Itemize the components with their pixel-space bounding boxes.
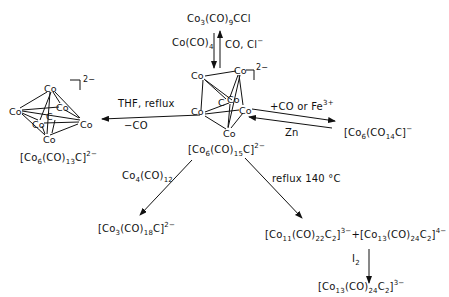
atom-co: Co — [223, 129, 235, 139]
formula-part: [Co — [265, 229, 283, 240]
right-arrow-reverse-label: Zn — [285, 128, 299, 138]
final-arrow-label: I2 — [352, 254, 360, 267]
superscript: 2− — [86, 150, 97, 158]
subscript: 11 — [283, 235, 292, 243]
atom-carbon: C — [218, 98, 225, 108]
superscript: 3− — [394, 279, 405, 287]
formula-part: C — [325, 229, 332, 240]
formula-part: Co(CO) — [172, 37, 209, 48]
right-compound: [Co6(CO14C]− — [344, 126, 412, 141]
formula-part: [Co — [344, 127, 362, 138]
final-compound: [Co13(CO)24C2]3− — [318, 280, 404, 295]
subscript: 13 — [336, 287, 345, 295]
atom-co: Co — [234, 66, 246, 76]
superscript: 2− — [164, 221, 175, 229]
formula-part: (CO) — [42, 152, 65, 163]
subscript: 13 — [378, 235, 387, 243]
atom-co: Co — [191, 71, 203, 81]
atom-co: Co — [56, 103, 68, 113]
central-charge: 2− — [256, 64, 268, 72]
central-charge-bracket — [246, 70, 254, 80]
formula-part: C] — [153, 223, 164, 234]
formula-part: C] — [395, 127, 406, 138]
subscript: 15 — [234, 150, 243, 158]
arrow-to-co11-products — [245, 158, 302, 218]
formula-part: (CO) — [205, 13, 228, 24]
subscript: 12 — [164, 176, 173, 184]
lower-right-products: [Co11(CO)22C2]3−+[Co13(CO)24C2]4− — [265, 228, 446, 243]
formula-part: (CO) — [345, 281, 368, 292]
left-arrow-bottom-label: −CO — [124, 121, 148, 131]
atom-co: Co — [191, 107, 203, 117]
left-compound: [Co6(CO)13C]2− — [20, 151, 97, 166]
formula-part: (CO) — [140, 170, 163, 181]
formula-part: Co — [187, 13, 201, 24]
arrow-to-co3-18 — [140, 160, 192, 215]
top-compound: Co3(CO)9CCl — [187, 14, 251, 27]
left-charge-bracket — [70, 80, 80, 90]
atom-co: Co — [32, 120, 44, 130]
formula-part: [Co — [188, 144, 206, 155]
subscript: 22 — [315, 235, 324, 243]
superscript: 4− — [436, 227, 447, 235]
subscript: 2 — [355, 259, 360, 267]
plus-sign: + — [351, 229, 360, 240]
formula-part: C — [378, 281, 385, 292]
subscript: 13 — [66, 158, 75, 166]
formula-part: (CO) — [387, 229, 410, 240]
atom-co: Co — [43, 135, 55, 145]
lower-left-arrow-label: Co4(CO)12 — [122, 171, 173, 184]
formula-part: C] — [75, 152, 86, 163]
left-charge: 2− — [83, 76, 95, 84]
top-arrow-up-label: CO, Cl− — [225, 38, 263, 50]
atom-carbon: C — [46, 112, 53, 122]
formula-part: [Co — [20, 152, 38, 163]
central-compound: [Co6(CO)15C]2− — [188, 143, 265, 158]
atom-co: Co — [227, 95, 239, 105]
subscript: 24 — [410, 235, 419, 243]
lower-left-compound: [Co3(CO)18C]2− — [98, 222, 175, 237]
right-arrow-forward-label: +CO or Fe3+ — [270, 100, 334, 112]
superscript: − — [257, 37, 263, 45]
superscript: 2− — [254, 142, 265, 150]
left-arrow-top-label: THF, reflux — [118, 99, 175, 109]
subscript: 14 — [386, 133, 395, 141]
formula-part: (CO — [366, 127, 385, 138]
formula-part: (CO) — [120, 223, 143, 234]
formula-part: [Co — [360, 229, 378, 240]
superscript: 3− — [341, 227, 352, 235]
arrow-to-left-compound — [102, 115, 200, 119]
atom-co: Co — [80, 120, 92, 130]
formula-part: C] — [243, 144, 254, 155]
subscript: 4 — [209, 43, 214, 51]
lower-right-arrow-label: reflux 140 °C — [272, 174, 341, 184]
atom-co: Co — [44, 84, 56, 94]
subscript: 24 — [368, 287, 377, 295]
formula-part: CO, Cl — [225, 39, 257, 50]
formula-part: (CO) — [210, 144, 233, 155]
formula-part: [Co — [318, 281, 336, 292]
formula-part: Co — [122, 170, 136, 181]
top-arrow-down-label: Co(CO)4 — [172, 38, 214, 51]
formula-part: CCl — [233, 13, 250, 24]
formula-part: +CO or Fe — [270, 101, 323, 112]
atom-co: Co — [239, 106, 251, 116]
formula-part: (CO) — [292, 229, 315, 240]
formula-part: C — [420, 229, 427, 240]
superscript: 3+ — [323, 99, 334, 107]
subscript: 18 — [144, 229, 153, 237]
atom-co: Co — [9, 107, 21, 117]
superscript: − — [406, 125, 412, 133]
formula-part: [Co — [98, 223, 116, 234]
